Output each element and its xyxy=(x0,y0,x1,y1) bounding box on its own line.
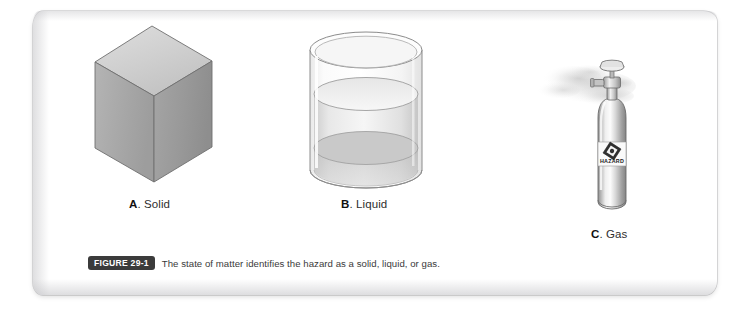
figure-caption-row: FIGURE 29-1 The state of matter identifi… xyxy=(88,256,440,270)
beaker-liquid-surface xyxy=(314,78,418,111)
hazard-placard-label: HAZARD xyxy=(598,140,626,166)
gas-label-text: . Gas xyxy=(599,228,627,240)
liquid-illustration xyxy=(300,30,432,192)
gas-cylinder-icon: HAZARD xyxy=(528,50,688,220)
valve-handwheel-cap xyxy=(600,60,624,67)
cube-icon xyxy=(92,22,220,190)
valve-outlet-tip xyxy=(591,79,595,88)
solid-label-text: . Solid xyxy=(137,198,170,210)
liquid-label-text: . Liquid xyxy=(349,198,387,210)
solid-illustration xyxy=(92,22,220,190)
beaker-left-highlight xyxy=(315,56,318,168)
figure-page: A. Solid xyxy=(0,0,751,318)
figure-number-badge: FIGURE 29-1 xyxy=(88,256,155,270)
liquid-label: B. Liquid xyxy=(341,198,387,210)
beaker-right-highlight xyxy=(412,56,415,166)
figure-caption-text: The state of matter identifies the hazar… xyxy=(162,258,440,269)
valve-body xyxy=(604,77,621,88)
placard-text: HAZARD xyxy=(600,158,624,164)
beaker-icon xyxy=(300,30,432,192)
valve-outlet-port xyxy=(593,80,604,87)
solid-label: A. Solid xyxy=(129,198,170,210)
gas-illustration: HAZARD xyxy=(528,50,688,220)
escaping-vapor xyxy=(536,65,636,105)
gas-label: C. Gas xyxy=(591,228,627,240)
beaker-rim-inner xyxy=(315,36,417,68)
beaker-inner-bottom xyxy=(314,132,418,165)
